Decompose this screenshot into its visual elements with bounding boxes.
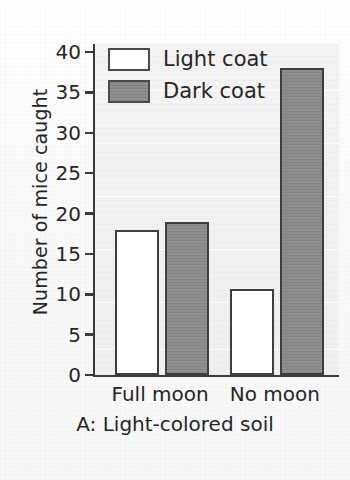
y-axis-tick-10 [85,293,95,296]
chart-legend: Light coat Dark coat [108,48,268,103]
y-axis-tick-35 [85,91,95,94]
y-axis-tick-label-20: 20 [35,204,81,224]
chart-caption: A: Light-colored soil [0,414,350,434]
y-axis-tick-label-10: 10 [35,284,81,304]
y-axis-tick-25 [85,172,95,175]
y-axis-tick-label-25: 25 [35,163,81,183]
legend-swatch-dark-coat-icon [108,80,150,103]
bar-no-moon-dark-coat [280,68,324,375]
bar-full-moon-light-coat [115,230,159,375]
y-axis-tick-0 [85,374,95,377]
y-axis-tick-15 [85,253,95,256]
y-axis-tick-40 [85,51,95,54]
y-axis-tick-label-35: 35 [35,82,81,102]
bar-no-moon-light-coat [230,289,274,375]
legend-label-dark-coat: Dark coat [163,81,265,102]
y-axis-tick-30 [85,132,95,135]
bar-chart-figure: Number of mice caught 0510152025303540 L… [0,0,350,480]
legend-swatch-light-coat-icon [108,48,150,71]
y-axis-tick-label-40: 40 [35,42,81,62]
y-axis-tick-label-5: 5 [35,325,81,345]
legend-item-light-coat: Light coat [108,48,268,71]
x-axis-tick-label-no-moon: No moon [205,384,345,404]
y-axis-tick-20 [85,212,95,215]
y-axis-tick-label-30: 30 [35,123,81,143]
legend-item-dark-coat: Dark coat [108,80,268,103]
y-axis-tick-5 [85,333,95,336]
y-axis-tick-label-0: 0 [35,365,81,385]
bar-full-moon-dark-coat [165,222,209,375]
y-axis-tick-label-15: 15 [35,244,81,264]
legend-label-light-coat: Light coat [163,49,268,70]
